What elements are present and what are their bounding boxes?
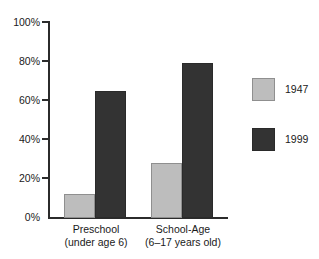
bar-schoolage-1947 bbox=[151, 163, 182, 218]
y-axis-tick-labels: 100% 80% 60% 40% 20% 0% bbox=[0, 0, 40, 259]
legend-label-1999: 1999 bbox=[285, 134, 308, 145]
legend-swatch-1947-icon bbox=[252, 78, 275, 101]
y-tick-label-20: 20% bbox=[0, 173, 40, 183]
bar-chart-figure: 100% 80% 60% 40% 20% 0% Preschool (under… bbox=[0, 0, 319, 259]
bar-preschool-1947 bbox=[64, 194, 95, 218]
y-tick-label-100: 100% bbox=[0, 17, 40, 27]
y-tick-label-60: 60% bbox=[0, 95, 40, 105]
y-tick-label-0: 0% bbox=[0, 212, 40, 222]
y-tick-label-80: 80% bbox=[0, 56, 40, 66]
legend-swatch-1999-icon bbox=[252, 128, 275, 151]
legend-label-1947: 1947 bbox=[285, 84, 308, 95]
plot-area bbox=[49, 22, 228, 218]
category-label-schoolage: School-Age (6–17 years old) bbox=[133, 223, 233, 249]
category-label-schoolage-line2: (6–17 years old) bbox=[133, 236, 233, 249]
bar-schoolage-1999 bbox=[182, 63, 213, 218]
category-label-schoolage-line1: School-Age bbox=[156, 223, 210, 235]
category-label-preschool-line2: (under age 6) bbox=[46, 236, 146, 249]
y-tick-label-40: 40% bbox=[0, 134, 40, 144]
category-label-preschool-line1: Preschool bbox=[73, 223, 120, 235]
category-label-preschool: Preschool (under age 6) bbox=[46, 223, 146, 249]
bar-preschool-1999 bbox=[95, 91, 126, 218]
